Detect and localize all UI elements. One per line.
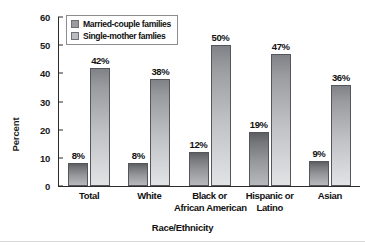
bar-value-label: 50%	[212, 32, 230, 43]
y-axis-title-wrapper: Percent	[8, 60, 22, 140]
x-axis-line	[58, 186, 360, 187]
bar-group: 9%36%	[309, 17, 351, 186]
bar-single-mother[interactable]	[90, 68, 110, 186]
y-tick-mark	[58, 186, 63, 187]
bar-value-label: 42%	[91, 55, 109, 66]
bar-chart-figure: Percent 0102030405060 8%42%8%38%12%50%19…	[0, 0, 365, 246]
y-tick-mark	[58, 45, 63, 46]
y-axis-title: Percent	[10, 117, 21, 151]
bar-married-couple[interactable]	[249, 132, 269, 186]
bar-group: 12%50%	[189, 17, 231, 186]
x-axis-category-labels: TotalWhiteBlack orAfrican AmericanHispan…	[59, 190, 360, 224]
bar-value-label: 47%	[272, 41, 290, 52]
y-tick-mark	[58, 101, 63, 102]
bar-married-couple[interactable]	[68, 163, 88, 186]
legend-item-single: Single-mother famlies	[71, 31, 171, 41]
bar-single-mother[interactable]	[271, 54, 291, 186]
bar-married-couple[interactable]	[128, 163, 148, 186]
bar-value-label: 12%	[190, 139, 208, 150]
x-category-label-line: Asian	[294, 190, 365, 202]
bar-married-couple[interactable]	[309, 161, 329, 186]
y-tick-label: 20	[40, 124, 50, 135]
bar-value-label: 38%	[151, 66, 169, 77]
y-tick-label: 30	[40, 96, 50, 107]
bar-value-label: 8%	[72, 150, 85, 161]
y-tick-label: 0	[45, 181, 50, 192]
bar-single-mother[interactable]	[150, 79, 170, 186]
y-tick-label: 60	[40, 12, 50, 23]
x-axis-title: Race/Ethnicity	[0, 222, 365, 233]
y-tick-mark	[58, 157, 63, 158]
x-category-label: Asian	[294, 190, 365, 202]
y-tick-label: 10	[40, 152, 50, 163]
bar-value-label: 19%	[250, 119, 268, 130]
bar-married-couple[interactable]	[189, 152, 209, 186]
y-tick-label: 40	[40, 68, 50, 79]
y-tick-label: 50	[40, 40, 50, 51]
bar-value-label: 9%	[312, 148, 325, 159]
x-category-label-line: Latino	[234, 202, 305, 214]
legend-label-single: Single-mother famlies	[83, 31, 165, 41]
y-tick-mark	[58, 17, 63, 18]
y-tick-mark	[58, 129, 63, 130]
legend: Married-couple families Single-mother fa…	[66, 15, 178, 45]
y-axis-ticks: 0102030405060	[26, 0, 50, 246]
y-tick-mark	[58, 73, 63, 74]
legend-item-married: Married-couple families	[71, 19, 171, 29]
legend-swatch-icon-single	[71, 32, 79, 40]
legend-label-married: Married-couple families	[83, 19, 171, 29]
bar-value-label: 36%	[332, 72, 350, 83]
bar-value-label: 8%	[132, 150, 145, 161]
bar-single-mother[interactable]	[211, 45, 231, 186]
bar-group: 19%47%	[249, 17, 291, 186]
footer-divider	[0, 241, 365, 242]
legend-swatch-icon-married	[71, 20, 79, 28]
bar-single-mother[interactable]	[331, 85, 351, 186]
